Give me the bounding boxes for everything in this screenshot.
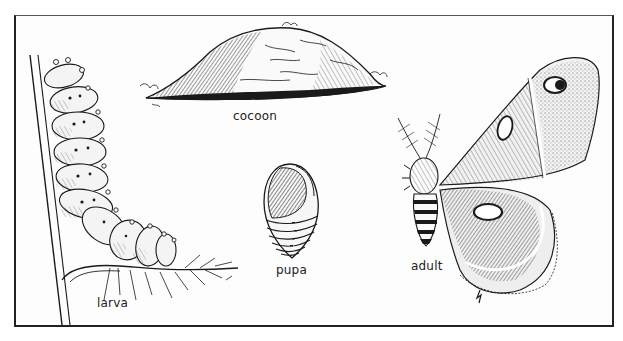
label-cocoon: cocoon [233, 110, 277, 122]
life-cycle-illustration [0, 0, 623, 341]
label-larva: larva [97, 297, 128, 309]
label-pupa: pupa [276, 264, 307, 276]
label-adult: adult [411, 260, 443, 272]
pupa-illustration [264, 164, 318, 258]
cocoon-illustration [140, 23, 387, 108]
